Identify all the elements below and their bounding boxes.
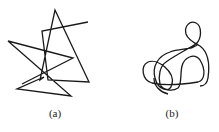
panel-a: (a) [0, 0, 110, 132]
caption-b: (b) [152, 107, 192, 119]
caption-a: (a) [35, 107, 75, 119]
panel-b: (b) [110, 0, 219, 132]
